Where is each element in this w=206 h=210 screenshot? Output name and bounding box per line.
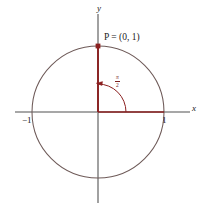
angle-arc <box>98 84 126 112</box>
y-axis-label: y <box>97 4 101 13</box>
x-tick-label-one: 1 <box>162 116 167 125</box>
angle-label-numerator: π <box>115 75 120 81</box>
unit-circle-svg <box>0 0 206 210</box>
angle-label-denominator: 2 <box>115 83 120 89</box>
point-p-marker <box>96 44 101 49</box>
unit-circle-figure: y x −1 1 P = (0, 1) π 2 <box>0 0 206 210</box>
angle-label-pi-over-two: π 2 <box>115 75 120 89</box>
x-axis-label: x <box>192 104 196 113</box>
x-tick-label-negative-one: −1 <box>22 116 32 125</box>
point-p-label: P = (0, 1) <box>104 33 140 43</box>
